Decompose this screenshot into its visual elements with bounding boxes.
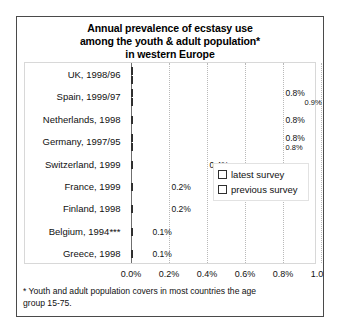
- bar-group: 0.1%: [131, 221, 315, 243]
- bar-group: 0.1%: [131, 243, 315, 265]
- x-tick-label: 0.2%: [159, 269, 180, 279]
- chart-figure: Annual prevalence of ecstasy use among t…: [16, 16, 324, 317]
- bar-value-label: 0.8%: [283, 115, 305, 125]
- bar-group: 0.2%: [131, 198, 315, 220]
- category-label: Finland, 1998: [63, 198, 121, 220]
- bar-rect: [131, 143, 133, 151]
- category-label: Belgium, 1994***: [49, 221, 121, 243]
- footnote-line-1: * Youth and adult population covers in m…: [23, 285, 315, 297]
- bar-latest[interactable]: 0.1%: [131, 250, 150, 258]
- bar-latest[interactable]: 0.8%: [131, 134, 283, 142]
- category-label: France, 1999: [65, 176, 121, 198]
- category-label: UK, 1998/96: [68, 64, 121, 86]
- x-tick-label: 0.0%: [121, 269, 142, 279]
- x-tick-label: 0.6%: [235, 269, 256, 279]
- bar-latest[interactable]: 0.8%: [131, 89, 283, 97]
- bar-rect: [131, 134, 133, 142]
- x-tick-label: 1.0%: [311, 269, 324, 279]
- bar-latest[interactable]: 0.4%: [131, 161, 207, 169]
- bar-value-label: 0.8%: [283, 88, 305, 98]
- bar-rect: [131, 250, 133, 258]
- legend-label-previous-survey: previous survey: [231, 184, 298, 195]
- chart-legend: latest survey previous survey: [213, 163, 309, 201]
- chart-row: Netherlands, 19980.8%: [25, 109, 315, 131]
- chart-row: Belgium, 1994***0.1%: [25, 221, 315, 243]
- bar-previous[interactable]: 1.0%: [131, 76, 321, 84]
- chart-title-line-3: in western Europe: [17, 48, 323, 61]
- bar-value-label: 0.1%: [150, 249, 172, 259]
- chart-row: Spain, 1999/970.8%0.9%: [25, 86, 315, 108]
- chart-row: Germany, 1997/950.8%0.8%: [25, 131, 315, 153]
- bar-group: 1.0%1.0%: [131, 64, 315, 86]
- bar-value-label: 1.0%: [321, 75, 324, 84]
- chart-title-line-1: Annual prevalence of ecstasy use: [17, 22, 323, 35]
- category-label: Germany, 1997/95: [43, 131, 121, 153]
- legend-swatch-icon: [218, 185, 227, 194]
- gridline: [321, 63, 323, 263]
- bar-latest[interactable]: 0.1%: [131, 228, 150, 236]
- chart-row: Finland, 19980.2%: [25, 198, 315, 220]
- chart-title-line-2: among the youth & adult population*: [17, 35, 323, 48]
- bar-rect: [131, 161, 133, 169]
- category-label: Spain, 1999/97: [57, 86, 121, 108]
- bar-value-label: 0.8%: [283, 133, 305, 143]
- x-tick-label: 0.4%: [197, 269, 218, 279]
- category-label: Greece, 1998: [63, 243, 121, 265]
- bar-rect: [131, 183, 133, 191]
- footnote-line-2: group 15-75.: [23, 297, 315, 309]
- x-axis-tick-labels: 0.0%0.2%0.4%0.6%0.8%1.0%: [24, 269, 316, 282]
- legend-label-latest-survey: latest survey: [231, 169, 284, 180]
- chart-row: Greece, 19980.1%: [25, 243, 315, 265]
- bar-previous[interactable]: 0.8%: [131, 143, 283, 151]
- bar-rect: [131, 116, 133, 124]
- x-tick-label: 0.8%: [273, 269, 294, 279]
- bar-value-label: 0.9%: [302, 97, 322, 106]
- bar-value-label: 0.8%: [283, 142, 303, 151]
- chart-row: UK, 1998/961.0%1.0%: [25, 64, 315, 86]
- bar-value-label: 0.2%: [169, 204, 191, 214]
- bar-value-label: 1.0%: [321, 66, 324, 76]
- legend-item-latest-survey[interactable]: latest survey: [218, 167, 308, 182]
- bar-rect: [131, 76, 133, 84]
- bar-rect: [131, 67, 133, 75]
- bar-value-label: 0.2%: [169, 182, 191, 192]
- bar-latest[interactable]: 0.2%: [131, 205, 169, 213]
- bar-group: 0.8%0.8%: [131, 131, 315, 153]
- bar-group: 0.8%: [131, 109, 315, 131]
- bar-latest[interactable]: 0.2%: [131, 183, 169, 191]
- bar-value-label: 0.1%: [150, 227, 172, 237]
- bar-rect: [131, 228, 133, 236]
- legend-item-previous-survey[interactable]: previous survey: [218, 182, 308, 197]
- bar-group: 0.8%0.9%: [131, 86, 315, 108]
- category-label: Switzerland, 1999: [45, 154, 121, 176]
- legend-swatch-icon: [218, 170, 227, 179]
- chart-footnote: * Youth and adult population covers in m…: [23, 285, 315, 309]
- bar-previous[interactable]: 0.9%: [131, 98, 302, 106]
- bar-rect: [131, 205, 133, 213]
- category-label: Netherlands, 1998: [43, 109, 121, 131]
- bar-rect: [131, 89, 133, 97]
- bar-latest[interactable]: 1.0%: [131, 67, 321, 75]
- bar-rect: [131, 98, 133, 106]
- bar-latest[interactable]: 0.8%: [131, 116, 283, 124]
- chart-title: Annual prevalence of ecstasy use among t…: [17, 22, 323, 61]
